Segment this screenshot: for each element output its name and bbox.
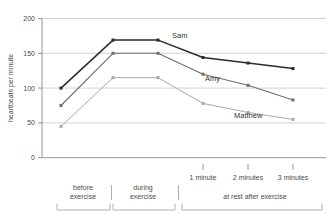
series-label-matthew: Matthew — [234, 111, 263, 120]
data-point — [157, 76, 160, 79]
data-point — [247, 84, 250, 87]
series-points-amy — [60, 52, 295, 107]
x-tick-marks — [203, 164, 293, 170]
y-axis-title: heartbeats per minute — [7, 54, 15, 122]
group-brackets — [57, 204, 322, 211]
series-points-matthew — [60, 76, 295, 128]
x-tick-label-3-minutes: 3 minutes — [278, 174, 309, 181]
data-point — [292, 67, 295, 70]
data-point — [112, 39, 115, 42]
group-label-at-rest: at rest after exercise — [223, 193, 287, 200]
x-tick-label-1-minute: 1 minute — [190, 174, 217, 181]
group-during-line1: during — [133, 184, 153, 192]
data-point — [157, 39, 160, 42]
group-before-line2: exercise — [70, 193, 96, 200]
data-point — [60, 125, 63, 128]
series-label-sam: Sam — [172, 31, 187, 40]
series-line-amy — [61, 53, 293, 105]
data-point — [202, 56, 205, 59]
y-tick-label-0: 0 — [31, 154, 35, 161]
data-point — [60, 104, 63, 107]
x-tick-labels: 1 minute 2 minutes 3 minutes — [190, 174, 309, 181]
series-matthew — [60, 76, 295, 128]
bracket-during-exercise — [113, 204, 175, 211]
y-tick-label-150: 150 — [23, 50, 35, 57]
data-point — [60, 87, 63, 90]
group-before-line1: before — [73, 184, 93, 191]
y-tick-label-100: 100 — [23, 85, 35, 92]
group-label-before-exercise: before exercise — [70, 184, 96, 200]
series-label-amy: Amy — [205, 74, 220, 83]
series-amy — [60, 52, 295, 107]
data-point — [157, 52, 160, 55]
y-tick-marks — [38, 19, 42, 158]
data-point — [292, 118, 295, 121]
bracket-before-exercise — [57, 204, 110, 211]
chart-canvas: 200 150 100 50 0 heartbeats per minute S… — [0, 0, 334, 223]
group-during-line2: exercise — [130, 193, 156, 200]
line-chart: 200 150 100 50 0 heartbeats per minute S… — [0, 0, 334, 223]
data-point — [112, 52, 115, 55]
series-sam — [60, 39, 295, 90]
bracket-at-rest — [182, 204, 322, 211]
data-point — [202, 102, 205, 105]
y-tick-label-50: 50 — [27, 119, 35, 126]
x-tick-label-2-minutes: 2 minutes — [233, 174, 264, 181]
y-tick-labels: 200 150 100 50 0 — [23, 15, 35, 161]
group-label-during-exercise: during exercise — [130, 184, 156, 200]
data-point — [112, 76, 115, 79]
series-line-sam — [61, 40, 293, 88]
data-point — [292, 98, 295, 101]
data-point — [247, 62, 250, 65]
y-tick-label-200: 200 — [23, 15, 35, 22]
